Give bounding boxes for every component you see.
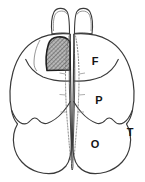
sulcus-tick-right-2 — [79, 95, 86, 96]
brain-diagram-figure: F P O T — [0, 0, 145, 182]
label-frontal: F — [92, 55, 99, 67]
label-temporal: T — [127, 126, 134, 138]
hemisphere-right-shape — [73, 34, 135, 174]
sulcus-tick-left-2 — [60, 95, 67, 96]
brain-outline-group — [10, 8, 134, 173]
label-occipital: O — [91, 138, 100, 150]
midline-bottom-notch — [72, 160, 73, 170]
brain-illustration: F P O T — [0, 0, 145, 182]
olfactory-bulb-left-shape — [52, 8, 70, 34]
label-parietal: P — [95, 94, 102, 106]
olfactory-bulb-right-shape — [75, 8, 93, 34]
